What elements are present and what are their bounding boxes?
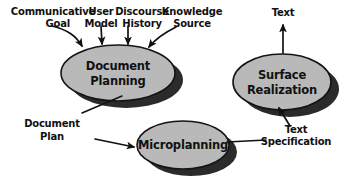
document-planning-label-line1: Document: [86, 59, 151, 73]
document-plan-line1: Document: [24, 118, 80, 129]
document-planning-label-line2: Planning: [90, 74, 145, 88]
node-surface-realization[interactable]: Surface Realization: [233, 54, 339, 117]
knowledge-source-line2: Source: [173, 18, 211, 29]
arrow-knowledge-source: [149, 27, 176, 47]
label-communicative-goal: Communicative Goal: [11, 6, 96, 29]
label-text-specification: Text Specification: [261, 124, 332, 147]
label-document-plan: Document Plan: [24, 118, 80, 142]
microplanning-label: Microplanning: [138, 138, 228, 152]
node-document-planning[interactable]: Document Planning: [61, 45, 183, 108]
surface-realization-label-line2: Realization: [247, 83, 317, 97]
label-knowledge-source: Knowledge Source: [162, 6, 223, 29]
user-model-line2: Model: [84, 18, 117, 29]
nlg-pipeline-diagram: Document Planning Microplanning Surface …: [0, 0, 357, 195]
text-specification-line1: Text: [285, 124, 308, 135]
surface-realization-label-line1: Surface: [258, 68, 307, 82]
document-plan-line2: Plan: [40, 131, 64, 142]
text-output-label: Text: [272, 7, 295, 18]
arrow-document-plan-to-microplanning: [95, 139, 134, 147]
arrow-communicative-goal: [52, 26, 82, 46]
diagram-canvas: Document Planning Microplanning Surface …: [0, 0, 357, 195]
communicative-goal-line1: Communicative: [11, 6, 96, 17]
discourse-history-line2: History: [122, 18, 162, 29]
communicative-goal-line2: Goal: [46, 18, 70, 29]
knowledge-source-line1: Knowledge: [162, 6, 223, 17]
node-microplanning[interactable]: Microplanning: [137, 121, 237, 176]
label-user-model: User Model: [84, 6, 117, 29]
user-model-line1: User: [89, 6, 114, 17]
text-specification-line2: Specification: [261, 136, 332, 147]
